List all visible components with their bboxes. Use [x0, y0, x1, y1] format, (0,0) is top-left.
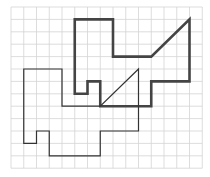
thick-polygon: [75, 19, 190, 106]
thin-polygon: [24, 69, 139, 156]
grid-diagram: [0, 0, 210, 177]
shapes-layer: [24, 19, 190, 155]
grid-lines: [11, 7, 202, 168]
